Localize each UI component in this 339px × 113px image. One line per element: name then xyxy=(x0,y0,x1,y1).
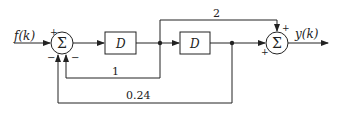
gain-forward-label: 2 xyxy=(213,7,220,20)
sum1-symbol: Σ xyxy=(57,35,67,51)
forward-path-2 xyxy=(160,20,277,43)
sum2-sign-top: + xyxy=(282,23,290,33)
sum2-sign-left: + xyxy=(261,47,269,57)
gain-feedback2-label: 0.24 xyxy=(126,89,151,102)
block-diagram: f(k) Σ + − − D D Σ + + y(k) 2 1 0.24 xyxy=(0,0,339,113)
output-label: y(k) xyxy=(294,27,319,41)
sum1-sign-input: + xyxy=(50,27,58,37)
delay2-label: D xyxy=(189,37,200,51)
sum2-symbol: Σ xyxy=(272,35,282,51)
gain-feedback1-label: 1 xyxy=(112,65,119,78)
delay1-label: D xyxy=(115,37,126,51)
junction-dot-2 xyxy=(230,41,234,45)
junction-dot-1 xyxy=(158,41,162,45)
sum1-sign-fb1: − xyxy=(71,52,79,63)
sum1-sign-fb2: − xyxy=(47,52,55,63)
input-label: f(k) xyxy=(13,29,35,43)
